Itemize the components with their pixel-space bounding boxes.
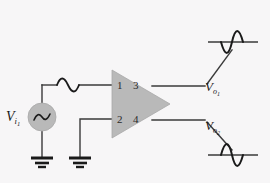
output2-label-main: V (205, 118, 213, 133)
output1-waveform-group (208, 31, 258, 53)
circuit-diagram-figure: Vi1 Vo1 Vo2 1 3 2 4 (0, 0, 270, 183)
output2-waveform-group (208, 144, 258, 166)
output2-label-sub: o2 (213, 126, 220, 135)
ground-symbol-source (31, 158, 53, 167)
output1-label-sub: o1 (213, 87, 220, 96)
input-source-label-sub: i1 (15, 116, 21, 126)
circuit-schematic-canvas (0, 0, 270, 183)
wire-reference-to-pin2 (80, 119, 112, 158)
amplifier-pin-2: 2 (117, 114, 123, 125)
output2-label: Vo2 (205, 119, 220, 136)
output1-label: Vo1 (205, 80, 220, 97)
output1-label-main: V (205, 79, 213, 94)
amplifier-pin-4: 4 (133, 114, 139, 125)
amplifier-pin-1: 1 (117, 80, 123, 91)
ground-symbol-reference (69, 158, 91, 167)
input-sine-waveform-icon (57, 79, 79, 92)
input-source-label-main: V (6, 109, 15, 124)
input-source-label: Vi1 (6, 110, 20, 127)
amplifier-pin-3: 3 (133, 80, 139, 91)
